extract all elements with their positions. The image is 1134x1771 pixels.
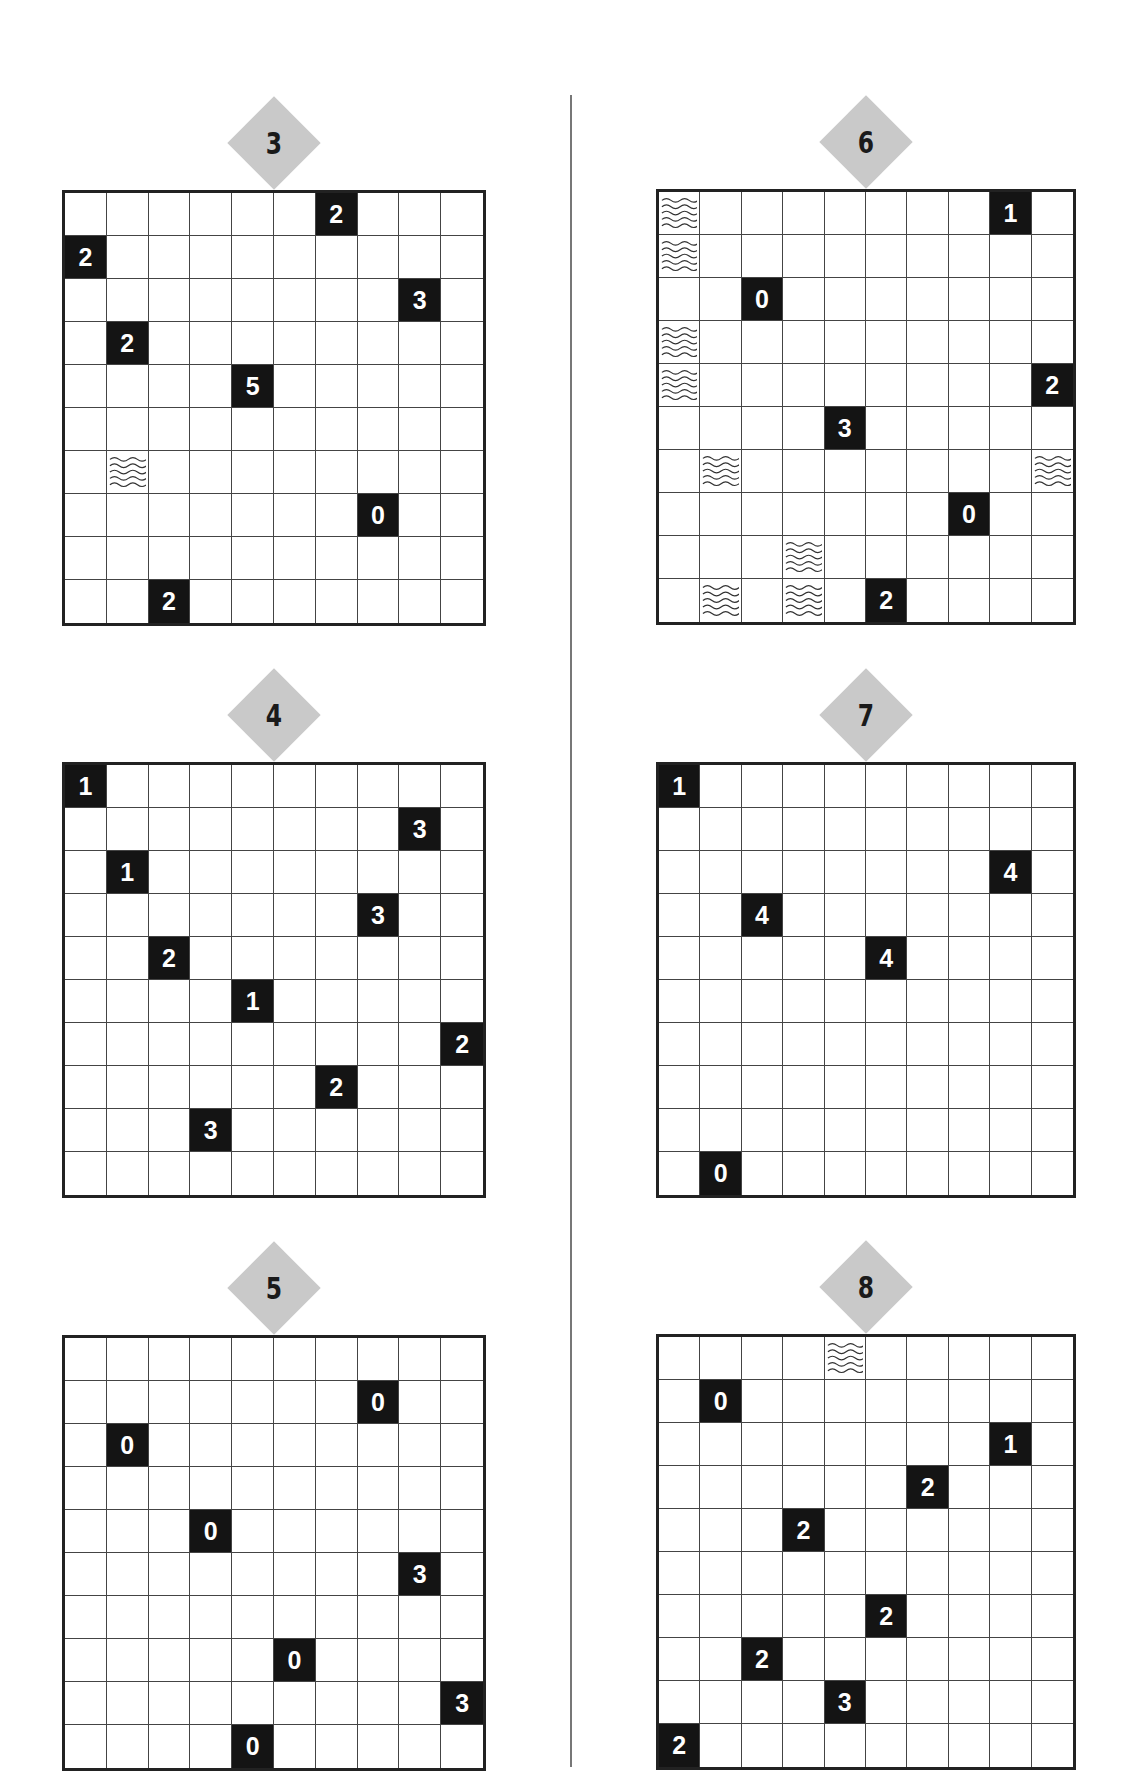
grid-cell[interactable] bbox=[825, 579, 866, 622]
grid-cell[interactable] bbox=[107, 1467, 149, 1510]
grid-cell[interactable] bbox=[441, 1639, 483, 1682]
grid-cell[interactable] bbox=[107, 365, 149, 408]
grid-cell[interactable] bbox=[232, 1424, 274, 1467]
grid-cell[interactable] bbox=[825, 937, 866, 980]
grid-cell[interactable] bbox=[107, 1109, 149, 1152]
grid-cell[interactable] bbox=[232, 537, 274, 580]
grid-cell[interactable] bbox=[866, 364, 907, 407]
grid-cell[interactable] bbox=[316, 1023, 358, 1066]
grid-cell[interactable] bbox=[358, 580, 400, 623]
grid-cell[interactable] bbox=[825, 851, 866, 894]
grid-cell[interactable] bbox=[825, 1552, 866, 1595]
grid-cell[interactable] bbox=[358, 537, 400, 580]
grid-cell[interactable] bbox=[866, 1509, 907, 1552]
grid-cell[interactable] bbox=[316, 1109, 358, 1152]
grid-cell[interactable] bbox=[742, 1724, 783, 1767]
grid-cell[interactable] bbox=[399, 1467, 441, 1510]
grid-cell[interactable] bbox=[949, 364, 990, 407]
grid-cell[interactable] bbox=[149, 851, 191, 894]
grid-cell[interactable] bbox=[149, 1338, 191, 1381]
grid-cell[interactable] bbox=[65, 1682, 107, 1725]
grid-cell[interactable] bbox=[907, 1638, 948, 1681]
grid-cell[interactable] bbox=[149, 494, 191, 537]
grid-cell[interactable] bbox=[358, 365, 400, 408]
grid-cell[interactable] bbox=[700, 1724, 741, 1767]
grid-cell[interactable] bbox=[783, 1423, 824, 1466]
grid-cell[interactable] bbox=[107, 494, 149, 537]
grid-cell[interactable] bbox=[783, 1552, 824, 1595]
grid-cell[interactable] bbox=[399, 1682, 441, 1725]
grid-cell[interactable] bbox=[65, 1510, 107, 1553]
grid-cell[interactable] bbox=[274, 1152, 316, 1195]
grid-cell[interactable] bbox=[232, 1639, 274, 1682]
grid-cell[interactable] bbox=[399, 408, 441, 451]
grid-cell[interactable] bbox=[190, 279, 232, 322]
grid-cell[interactable] bbox=[825, 1066, 866, 1109]
grid-cell[interactable] bbox=[65, 1023, 107, 1066]
grid-cell[interactable] bbox=[742, 1152, 783, 1195]
grid-cell[interactable] bbox=[866, 278, 907, 321]
grid-cell[interactable] bbox=[149, 1725, 191, 1768]
grid-cell[interactable] bbox=[399, 494, 441, 537]
grid-cell[interactable] bbox=[149, 1596, 191, 1639]
grid-cell[interactable] bbox=[907, 1023, 948, 1066]
grid-cell[interactable] bbox=[441, 765, 483, 808]
grid-cell[interactable] bbox=[149, 765, 191, 808]
grid-cell[interactable] bbox=[866, 765, 907, 808]
grid-cell[interactable] bbox=[65, 1553, 107, 1596]
grid-cell[interactable] bbox=[659, 407, 700, 450]
grid-cell[interactable] bbox=[65, 1424, 107, 1467]
grid-cell[interactable] bbox=[866, 536, 907, 579]
grid-cell[interactable] bbox=[659, 536, 700, 579]
grid-cell[interactable] bbox=[659, 1066, 700, 1109]
grid-cell[interactable] bbox=[949, 1023, 990, 1066]
grid-cell[interactable] bbox=[190, 1639, 232, 1682]
grid-cell[interactable] bbox=[659, 1466, 700, 1509]
grid-cell[interactable] bbox=[659, 1595, 700, 1638]
grid-cell[interactable] bbox=[399, 1596, 441, 1639]
grid-cell[interactable] bbox=[316, 580, 358, 623]
grid-cell[interactable] bbox=[866, 407, 907, 450]
grid-cell[interactable] bbox=[316, 1682, 358, 1725]
grid-cell[interactable] bbox=[1032, 1423, 1073, 1466]
grid-cell[interactable] bbox=[907, 894, 948, 937]
grid-cell[interactable] bbox=[399, 1639, 441, 1682]
grid-cell[interactable] bbox=[65, 937, 107, 980]
grid-cell[interactable] bbox=[65, 580, 107, 623]
grid-cell[interactable] bbox=[190, 580, 232, 623]
grid-cell[interactable] bbox=[949, 980, 990, 1023]
grid-cell[interactable] bbox=[825, 808, 866, 851]
grid-cell[interactable] bbox=[274, 937, 316, 980]
grid-cell[interactable] bbox=[659, 493, 700, 536]
grid-cell[interactable] bbox=[866, 1552, 907, 1595]
grid-cell[interactable] bbox=[232, 408, 274, 451]
grid-cell[interactable] bbox=[149, 236, 191, 279]
grid-cell[interactable] bbox=[907, 278, 948, 321]
grid-cell[interactable] bbox=[358, 980, 400, 1023]
grid-cell[interactable] bbox=[399, 1381, 441, 1424]
grid-cell[interactable] bbox=[825, 1466, 866, 1509]
grid-cell[interactable] bbox=[399, 1725, 441, 1768]
grid-cell[interactable] bbox=[825, 536, 866, 579]
grid-cell[interactable] bbox=[1032, 536, 1073, 579]
grid-cell[interactable] bbox=[825, 1509, 866, 1552]
grid-cell[interactable] bbox=[149, 808, 191, 851]
grid-cell[interactable] bbox=[742, 1066, 783, 1109]
grid-cell[interactable] bbox=[659, 1152, 700, 1195]
grid-cell[interactable] bbox=[441, 322, 483, 365]
grid-cell[interactable] bbox=[65, 894, 107, 937]
grid-cell[interactable] bbox=[990, 808, 1031, 851]
grid-cell[interactable] bbox=[358, 1725, 400, 1768]
grid-cell[interactable] bbox=[149, 365, 191, 408]
grid-cell[interactable] bbox=[907, 579, 948, 622]
grid-cell[interactable] bbox=[742, 808, 783, 851]
grid-cell[interactable] bbox=[783, 1337, 824, 1380]
grid-cell[interactable] bbox=[907, 851, 948, 894]
grid-cell[interactable] bbox=[659, 1380, 700, 1423]
grid-cell[interactable] bbox=[700, 192, 741, 235]
grid-cell[interactable] bbox=[107, 1682, 149, 1725]
grid-cell[interactable] bbox=[990, 321, 1031, 364]
grid-cell[interactable] bbox=[990, 1681, 1031, 1724]
grid-cell[interactable] bbox=[990, 1066, 1031, 1109]
grid-cell[interactable] bbox=[232, 580, 274, 623]
